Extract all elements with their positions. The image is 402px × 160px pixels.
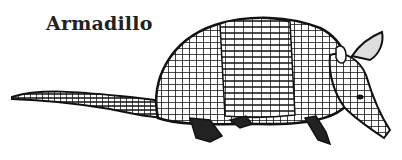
body-bands <box>220 18 295 117</box>
eye <box>357 95 364 100</box>
tail <box>12 92 168 118</box>
ear-inner <box>336 46 346 63</box>
armadillo-illustration <box>0 0 402 160</box>
front-leg <box>305 116 330 144</box>
ear <box>352 32 383 60</box>
